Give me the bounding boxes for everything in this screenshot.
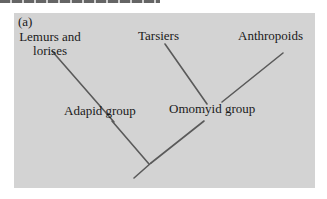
branch-omomyid-root <box>151 121 204 163</box>
branch-root-stem <box>134 163 151 178</box>
node-label-tarsiers: Tarsiers <box>138 29 179 43</box>
node-label-omomyid: Omomyid group <box>169 102 255 116</box>
branch-adapid-root <box>112 121 149 164</box>
node-label-lemurs: Lemurs and lorises <box>4 30 96 58</box>
node-label-lemurs-line2: lorises <box>4 44 96 58</box>
branch-tarsiers <box>165 44 207 104</box>
node-label-anthropoids: Anthropoids <box>238 29 303 43</box>
node-label-adapid: Adapid group <box>64 104 136 118</box>
node-label-lemurs-line1: Lemurs and <box>4 30 96 44</box>
branch-anthropoids <box>222 53 283 102</box>
panel-label: (a) <box>18 15 32 29</box>
